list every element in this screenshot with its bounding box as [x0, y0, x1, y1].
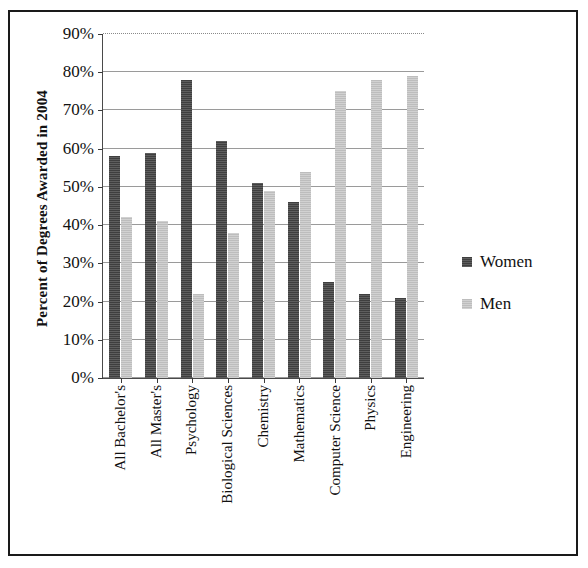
plot-area: 0%10%20%30%40%50%60%70%80%90%	[102, 34, 424, 379]
y-tick-label: 10%	[63, 329, 94, 349]
x-label-slot: Physics	[352, 381, 388, 531]
x-label-slot: Chemistry	[245, 381, 281, 531]
bar-men	[157, 221, 168, 378]
x-label-slot: Mathematics	[281, 381, 317, 531]
y-tick-label: 70%	[63, 100, 94, 120]
x-label-slot: Engineering	[388, 381, 424, 531]
bar-men	[300, 172, 311, 378]
y-axis-title: Percent of Degrees Awarded in 2004	[34, 59, 51, 359]
bar-women	[288, 202, 299, 378]
bar-group	[388, 34, 424, 378]
x-tick-label: Psychology	[183, 385, 200, 455]
x-tick-label: All Bachelor's	[111, 385, 128, 471]
bar-women	[145, 153, 156, 379]
legend-swatch-icon	[462, 257, 472, 267]
chart-figure-frame: Percent of Degrees Awarded in 2004 0%10%…	[8, 10, 578, 556]
bar-group	[317, 34, 353, 378]
x-tick-label: Chemistry	[255, 385, 272, 448]
legend-label: Men	[480, 294, 511, 314]
bar-women	[359, 294, 370, 378]
bar-group	[353, 34, 389, 378]
bar-men	[264, 191, 275, 378]
bar-men	[371, 80, 382, 378]
y-tick-label: 80%	[63, 62, 94, 82]
bars-layer	[103, 34, 424, 378]
bar-group	[246, 34, 282, 378]
bar-women	[323, 282, 334, 378]
x-tick-label: Biological Sciences	[219, 385, 236, 504]
bar-men	[228, 233, 239, 378]
plot-wrapper: 0%10%20%30%40%50%60%70%80%90%	[102, 34, 424, 379]
x-label-slot: Biological Sciences	[209, 381, 245, 531]
legend-label: Women	[480, 252, 532, 272]
x-tick-label: All Master's	[147, 385, 164, 458]
bar-women	[395, 298, 406, 378]
y-tick-label: 20%	[63, 291, 94, 311]
bar-men	[121, 217, 132, 378]
y-tick-label: 40%	[63, 215, 94, 235]
bar-women	[252, 183, 263, 378]
chart-legend: WomenMen	[462, 252, 572, 336]
bar-women	[181, 80, 192, 378]
x-axis-labels-group: All Bachelor'sAll Master'sPsychologyBiol…	[102, 381, 424, 531]
legend-item-men: Men	[462, 294, 572, 314]
bar-men	[193, 294, 204, 378]
legend-item-women: Women	[462, 252, 572, 272]
bar-women	[216, 141, 227, 378]
bar-group	[281, 34, 317, 378]
y-tick-label: 60%	[63, 138, 94, 158]
x-label-slot: All Bachelor's	[102, 381, 138, 531]
y-tick-label: 50%	[63, 176, 94, 196]
x-label-slot: Computer Science	[317, 381, 353, 531]
y-tick-label: 0%	[71, 368, 94, 388]
y-tick-label: 30%	[63, 253, 94, 273]
bar-group	[139, 34, 175, 378]
bar-group	[103, 34, 139, 378]
x-label-slot: All Master's	[138, 381, 174, 531]
bar-group	[210, 34, 246, 378]
y-tick-mark	[98, 378, 103, 379]
x-tick-label: Engineering	[398, 385, 415, 458]
legend-swatch-icon	[462, 299, 472, 309]
y-tick-label: 90%	[63, 24, 94, 44]
x-tick-label: Mathematics	[290, 385, 307, 462]
bar-group	[174, 34, 210, 378]
x-tick-label: Computer Science	[326, 385, 343, 495]
x-label-slot: Psychology	[174, 381, 210, 531]
bar-men	[407, 76, 418, 378]
x-tick-label: Physics	[362, 385, 379, 431]
bar-men	[335, 91, 346, 378]
bar-women	[109, 156, 120, 378]
